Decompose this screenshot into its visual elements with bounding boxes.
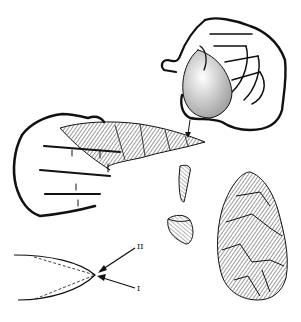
label-ii: II [137, 242, 143, 251]
hammer-hand [162, 18, 286, 130]
flint-core [60, 122, 205, 170]
label-i: I [137, 284, 140, 293]
handaxe [218, 172, 288, 300]
illustration-svg [0, 0, 301, 322]
knapping-illustration: II I [0, 0, 301, 322]
flakes [168, 165, 193, 244]
edge-diagram [14, 248, 135, 300]
